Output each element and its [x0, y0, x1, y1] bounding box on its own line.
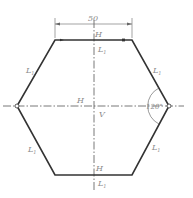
- top-edge-arrow-left: [60, 39, 64, 41]
- dimension-arrow-left: [55, 23, 60, 26]
- dimension-value: 50: [88, 14, 98, 23]
- label-top-l: L1: [97, 45, 107, 55]
- label-lower-left-l: L1: [27, 145, 37, 155]
- label-bottom-h: H: [95, 164, 104, 173]
- label-upper-right-l: L1: [152, 66, 162, 76]
- label-center-v: V: [99, 110, 106, 119]
- right-vertex-point: [167, 104, 171, 108]
- angle-label: 120°: [146, 103, 163, 111]
- dimension-arrow-right: [127, 23, 132, 26]
- top-edge-mark-right: [122, 39, 125, 42]
- hexagon-diagram: 50 120° H L1 L1 L1 H V L1 L1 H L1: [0, 0, 193, 198]
- label-top-h: H: [94, 30, 103, 39]
- label-center-h: H: [76, 96, 85, 105]
- label-upper-left-l: L1: [25, 66, 35, 76]
- label-lower-right-l: L1: [151, 143, 161, 153]
- label-bottom-l: L1: [97, 179, 107, 189]
- left-vertex-point: [15, 104, 19, 108]
